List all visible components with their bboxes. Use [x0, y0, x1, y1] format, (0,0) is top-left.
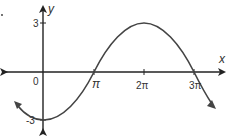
graph: y x 3 0 -3 π 2π 3π [0, 0, 234, 139]
x-tick-label-pi: π [92, 77, 101, 91]
origin-label: 0 [33, 76, 39, 87]
x-axis-label: x [218, 52, 226, 66]
stray-dot [1, 14, 3, 16]
y-axis-label: y [47, 2, 55, 16]
x-tick-label-3pi: 3π [189, 80, 202, 91]
y-tick-label-neg3: -3 [26, 115, 35, 126]
y-tick-label-3: 3 [33, 18, 39, 29]
curve-arrow-left [14, 101, 22, 109]
curve-arrow-right [207, 100, 216, 109]
x-tick-label-2pi: 2π [136, 80, 149, 91]
